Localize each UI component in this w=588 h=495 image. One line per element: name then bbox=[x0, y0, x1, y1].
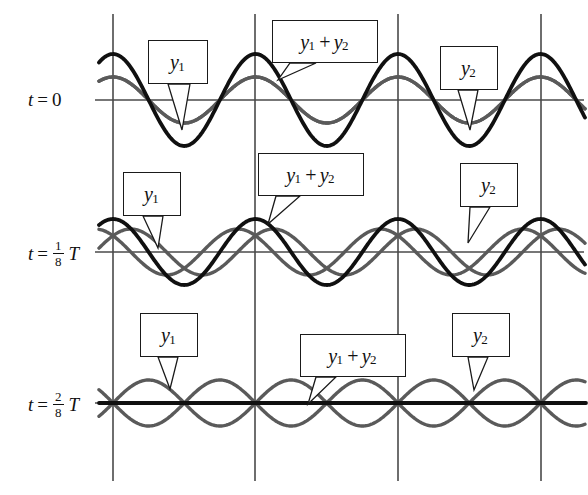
callout-operator: + bbox=[316, 32, 334, 52]
fraction-numerator: 1 bbox=[53, 239, 64, 253]
callout-subscript: 1 bbox=[152, 192, 159, 205]
callout-operator: + bbox=[344, 346, 362, 366]
period-symbol: T bbox=[69, 243, 80, 265]
callout-subscript: 2 bbox=[469, 66, 476, 79]
callout-subscript-b: 2 bbox=[328, 172, 335, 185]
time-label-row-1: t = 0 bbox=[28, 89, 62, 111]
fraction-one-eighth: 1 8 bbox=[53, 239, 64, 268]
equals-sign: = bbox=[37, 89, 48, 111]
callout-y1-plus-y2-row-1: y1+y2 bbox=[272, 20, 378, 63]
pointer-sum-row-2 bbox=[268, 196, 300, 224]
callout-operator: + bbox=[302, 165, 320, 185]
time-value: 0 bbox=[52, 89, 62, 111]
callout-subscript: 1 bbox=[169, 333, 176, 346]
callout-y2-row-2: y2 bbox=[460, 163, 518, 207]
callout-subscript-a: 1 bbox=[294, 172, 301, 185]
callout-y1-row-3: y1 bbox=[140, 313, 198, 357]
callout-subscript-a: 1 bbox=[336, 353, 343, 366]
callout-y2-row-3: y2 bbox=[452, 313, 510, 357]
equals-sign: = bbox=[37, 394, 48, 416]
callout-subscript: 2 bbox=[481, 333, 488, 346]
time-variable: t bbox=[28, 394, 33, 416]
fraction-numerator: 2 bbox=[53, 390, 64, 404]
callout-y2-row-1: y2 bbox=[440, 46, 498, 90]
fraction-denominator: 8 bbox=[53, 404, 64, 419]
wave-plot-svg bbox=[0, 0, 588, 495]
callout-y1-plus-y2-row-2: y1+y2 bbox=[258, 153, 364, 196]
period-symbol: T bbox=[69, 394, 80, 416]
equals-sign: = bbox=[37, 243, 48, 265]
callout-y1-row-1: y1 bbox=[148, 40, 208, 84]
time-label-row-3: t = 2 8 T bbox=[28, 390, 79, 419]
callout-subscript-b: 2 bbox=[370, 353, 377, 366]
callout-y1-plus-y2-row-3: y1+y2 bbox=[300, 334, 406, 377]
callout-subscript: 2 bbox=[489, 183, 496, 196]
fraction-denominator: 8 bbox=[53, 253, 64, 268]
time-variable: t bbox=[28, 243, 33, 265]
callout-subscript-a: 1 bbox=[308, 39, 315, 52]
pointer-y2-row-2 bbox=[468, 207, 490, 243]
callout-y1-row-2: y1 bbox=[123, 172, 181, 216]
callout-subscript-b: 2 bbox=[342, 39, 349, 52]
pointer-sum-row-1 bbox=[278, 63, 316, 80]
time-variable: t bbox=[28, 89, 33, 111]
pointer-y2-row-3 bbox=[468, 357, 488, 390]
fraction-two-eighths: 2 8 bbox=[53, 390, 64, 419]
callout-subscript: 1 bbox=[178, 60, 185, 73]
time-label-row-2: t = 1 8 T bbox=[28, 239, 79, 268]
wave-superposition-figure: t = 0 t = 1 8 T t = 2 8 T y1 y1+y2 y2 y1… bbox=[0, 0, 588, 495]
